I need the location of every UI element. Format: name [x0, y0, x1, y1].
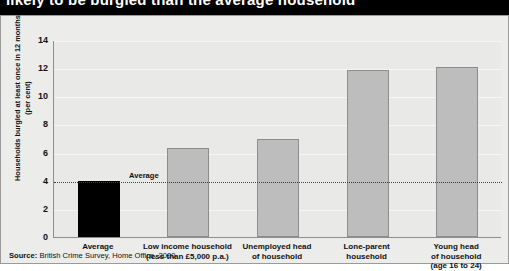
chart-plate: Households burgled at least once in 12 m… — [0, 15, 509, 264]
plot-area: 02468101214Average — [53, 41, 501, 238]
y-axis-tick-label: 0 — [8, 232, 48, 242]
y-axis-tick-label: 12 — [8, 63, 48, 73]
gridline — [54, 69, 502, 70]
bar-1 — [167, 148, 209, 237]
y-axis-tick-label: 14 — [8, 35, 48, 45]
source-note: Source: British Crime Survey, Home Offic… — [9, 251, 175, 260]
page-title: likely to be burgled than the average ho… — [6, 0, 355, 8]
y-axis-tick-label: 10 — [8, 91, 48, 101]
bar-2 — [257, 139, 299, 238]
bar-0 — [78, 181, 120, 237]
x-axis-label-line: of household — [396, 252, 509, 262]
source-label: Source: — [9, 251, 37, 260]
x-axis-label-4: Young headof household(age 16 to 24) — [396, 242, 509, 271]
gridline — [54, 125, 502, 126]
y-axis-tick-label: 2 — [8, 204, 48, 214]
chart-title-banner: likely to be burgled than the average ho… — [0, 0, 509, 15]
bar-4 — [436, 67, 478, 237]
y-axis-tick-label: 8 — [8, 119, 48, 129]
average-line-label: Average — [129, 171, 159, 180]
source-value: British Crime Survey, Home Office, 2000 — [37, 251, 175, 260]
gridline — [54, 41, 502, 42]
y-axis-tick-label: 4 — [8, 176, 48, 186]
average-reference-line — [54, 182, 502, 183]
y-axis-tick-label: 6 — [8, 148, 48, 158]
gridline — [54, 97, 502, 98]
x-axis-label-line: (age 16 to 24) — [396, 261, 509, 271]
bar-3 — [347, 70, 389, 237]
x-axis-label-line: Young head — [396, 242, 509, 252]
